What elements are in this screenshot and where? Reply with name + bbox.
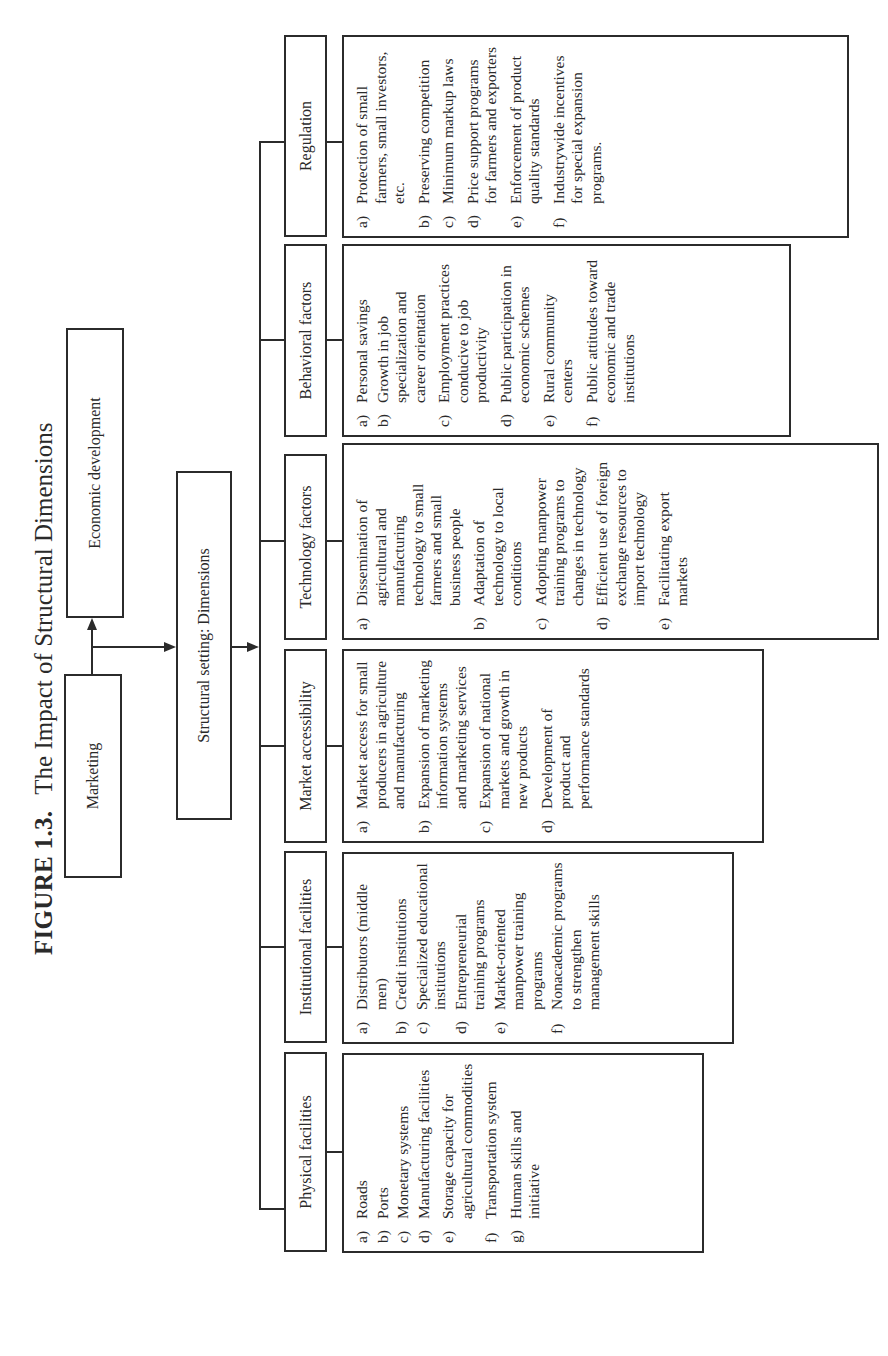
list-item: a)Personal savings — [353, 254, 372, 427]
list-item: a)Dissemination of agricultural and manu… — [353, 453, 464, 630]
list-item: b)Adaptation of technology to local cond… — [470, 453, 526, 630]
item-label: f) — [548, 1010, 604, 1034]
header-regulation: Regulation — [284, 35, 327, 237]
content-behavioral-factors: a)Personal savings b)Growth in job speci… — [342, 244, 791, 437]
item-label: e) — [439, 1219, 476, 1243]
item-label: d) — [415, 1219, 434, 1243]
content-institutional-facilities: a)Distributors (middle men) b)Credit ins… — [342, 852, 734, 1044]
item-label: a) — [353, 403, 372, 427]
item-text: Industrywide incentives for special expa… — [550, 45, 606, 204]
list-item: a)Distributors (middle men) — [353, 862, 390, 1034]
figure-number: FIGURE 1.3. — [30, 811, 57, 955]
item-text: Transportation system — [482, 1063, 501, 1219]
connector-marketing-to-structural — [92, 646, 170, 648]
item-text: Adopting manpower training programs to c… — [532, 453, 588, 606]
header-institutional-facilities: Institutional facilities — [284, 851, 327, 1043]
node-structural-setting-label: Structural setting: Dimensions — [195, 548, 213, 743]
item-label: e) — [507, 204, 544, 228]
list-item: d)Entrepreneurial training programs — [452, 862, 489, 1034]
item-label: a) — [353, 1219, 372, 1243]
item-label: d) — [497, 403, 534, 427]
arrow-to-structural-setting-icon — [164, 642, 176, 652]
header-label: Institutional facilities — [297, 879, 315, 1015]
item-label: f) — [583, 403, 639, 427]
item-label: c) — [476, 809, 532, 833]
list-item: f)Nonacademic programs to strengthen man… — [548, 862, 604, 1034]
item-text: Monetary systems — [394, 1063, 413, 1219]
list-item: f)Industrywide incentives for special ex… — [550, 45, 606, 228]
list-item: d)Public participation in economic schem… — [497, 254, 534, 427]
item-label: a) — [353, 809, 409, 833]
item-label: e) — [491, 1010, 547, 1034]
list-item: c)Monetary systems — [394, 1063, 413, 1243]
node-structural-setting: Structural setting: Dimensions — [176, 471, 232, 820]
list-item: c)Specialized educational institutions — [413, 862, 450, 1034]
item-text: Ports — [374, 1063, 393, 1219]
connector-technology-content — [326, 540, 343, 542]
header-physical-facilities: Physical facilities — [284, 1052, 327, 1252]
item-text: Rural community centers — [540, 254, 577, 403]
list-item: c)Expansion of national markets and grow… — [476, 659, 532, 833]
item-label: b) — [470, 606, 526, 630]
content-technology-factors: a)Dissemination of agricultural and manu… — [342, 443, 879, 640]
node-economic-development: Economic development — [66, 328, 124, 618]
header-label: Technology factors — [297, 486, 315, 609]
list-item: d)Manufacturing facilities — [415, 1063, 434, 1243]
item-text: Dissemination of agricultural and manufa… — [353, 453, 464, 606]
node-economic-development-label: Economic development — [86, 397, 104, 549]
connector-behavioral-content — [326, 339, 343, 341]
list-item: g)Human skills and initiative — [507, 1063, 544, 1243]
list-item: e)Storage capacity for agricultural comm… — [439, 1063, 476, 1243]
item-text: Public attitudes toward economic and tra… — [583, 254, 639, 403]
item-label: b) — [392, 1010, 411, 1034]
item-label: c) — [532, 606, 588, 630]
item-label: f) — [550, 204, 606, 228]
drop-regulation — [259, 141, 285, 143]
header-label: Behavioral factors — [297, 282, 315, 400]
list-item: d)Development of product and performance… — [538, 659, 594, 833]
item-label: a) — [353, 606, 464, 630]
item-text: Price support programs for farmers and e… — [464, 45, 501, 204]
header-label: Physical facilities — [297, 1095, 315, 1208]
connector-market-content — [326, 745, 343, 747]
item-text: Public participation in economic schemes — [497, 254, 534, 403]
item-text: Manufacturing facilities — [415, 1063, 434, 1219]
content-regulation: a)Protection of small farmers, small inv… — [342, 35, 849, 238]
drop-market — [259, 745, 285, 747]
node-marketing: Marketing — [64, 674, 122, 878]
item-label: b) — [374, 1219, 393, 1243]
connector-physical-content — [326, 1151, 343, 1153]
item-text: Specialized educational institutions — [413, 862, 450, 1010]
item-label: g) — [507, 1219, 544, 1243]
item-text: Entrepreneurial training programs — [452, 862, 489, 1010]
connector-institutional-content — [326, 946, 343, 948]
item-text: Storage capacity for agricultural commod… — [439, 1063, 476, 1219]
header-label: Regulation — [297, 101, 315, 171]
item-text: Efficient use of foreign exchange resour… — [593, 453, 649, 606]
list-item: e)Facilitating export markets — [655, 453, 692, 630]
list-item: a)Protection of small farmers, small inv… — [353, 45, 409, 228]
item-label: b) — [415, 809, 471, 833]
list-item: c)Adopting manpower training programs to… — [532, 453, 588, 630]
node-marketing-label: Marketing — [84, 743, 102, 810]
item-text: Expansion of marketing information syste… — [415, 659, 471, 809]
item-label: e) — [540, 403, 577, 427]
drop-behavioral — [259, 339, 285, 341]
drop-physical — [259, 1208, 285, 1210]
item-text: Personal savings — [353, 254, 372, 403]
figure-title-text: The Impact of Structural Dimensions — [30, 423, 57, 795]
item-label: e) — [655, 606, 692, 630]
item-label: b) — [415, 204, 434, 228]
item-label: d) — [593, 606, 649, 630]
list-item: b)Preserving competition — [415, 45, 434, 228]
item-text: Market access for small producers in agr… — [353, 659, 409, 809]
figure-title: FIGURE 1.3.The Impact of Structural Dime… — [26, 275, 62, 955]
item-label: f) — [482, 1219, 501, 1243]
item-label: d) — [538, 809, 594, 833]
item-text: Adaptation of technology to local condit… — [470, 453, 526, 606]
list-item: e)Market-oriented manpower training prog… — [491, 862, 547, 1034]
item-text: Minimum markup laws — [439, 45, 458, 204]
item-label: d) — [464, 204, 501, 228]
content-market-accessibility: a)Market access for small producers in a… — [342, 649, 764, 843]
item-text: Growth in job specialization and career … — [374, 254, 430, 403]
